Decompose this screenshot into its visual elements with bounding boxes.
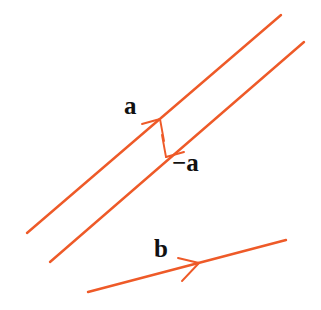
vector-label-negative-a: −a <box>172 150 199 175</box>
vector-label-a: a <box>124 93 137 118</box>
b-line <box>88 240 286 292</box>
upper-line <box>27 15 281 233</box>
vector-label-b: b <box>154 236 168 261</box>
diagram-canvas <box>0 0 321 310</box>
vector-diagram-figure: a −a b <box>0 0 321 310</box>
arrowhead-b <box>178 258 199 281</box>
